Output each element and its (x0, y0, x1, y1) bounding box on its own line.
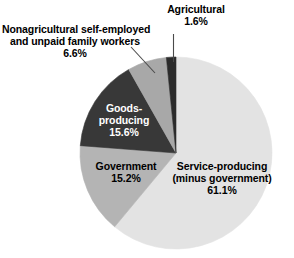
slice-label-agricultural: Agricultural 1.6% (138, 4, 254, 28)
slice-label-goods-producing: Goods- producing 15.6% (88, 103, 160, 139)
slice-label-nonagricultural-line1: Nonagricultural self-employed (2, 23, 150, 35)
slice-label-service-producing-percent: 61.1% (167, 185, 277, 197)
slice-label-nonagricultural-percent: 6.6% (2, 48, 148, 60)
slice-label-service-producing: Service-producing (minus government) 61.… (167, 161, 277, 197)
slice-label-service-producing-line2: (minus government) (172, 172, 271, 184)
slice-label-agricultural-percent: 1.6% (138, 16, 254, 28)
pie-chart-figure: Agricultural 1.6% Nonagricultural self-e… (0, 0, 294, 258)
slice-label-goods-producing-line2: producing (99, 114, 149, 126)
slice-label-goods-producing-percent: 15.6% (88, 127, 160, 139)
slice-label-nonagricultural-line2: and unpaid family workers (10, 35, 140, 47)
slice-label-government-name: Government (96, 160, 157, 172)
slice-label-agricultural-name: Agricultural (167, 3, 225, 15)
slice-label-government: Government 15.2% (82, 161, 170, 185)
slice-label-nonagricultural: Nonagricultural self-employed and unpaid… (2, 24, 148, 59)
slice-label-government-percent: 15.2% (82, 173, 170, 185)
slice-label-goods-producing-line1: Goods- (106, 102, 142, 114)
slice-label-service-producing-line1: Service-producing (177, 160, 268, 172)
